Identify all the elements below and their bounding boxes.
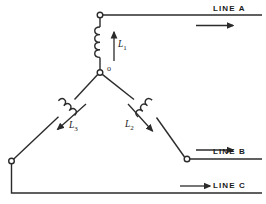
- line-c-label: LINE C: [213, 181, 246, 190]
- node-right-terminal: [184, 156, 190, 162]
- coil-3-label-subscript: 3: [74, 125, 78, 133]
- node-center-terminal: [97, 70, 103, 76]
- node-center-label: o: [107, 64, 111, 73]
- node-top-terminal: [97, 12, 103, 18]
- branch-left-conductor: [14, 74, 98, 159]
- line-b-label: LINE B: [213, 147, 246, 156]
- circuit-diagram: LINE A LINE B LINE C L1 L2 L3 o: [0, 0, 266, 204]
- line-a-label: LINE A: [213, 4, 246, 13]
- node-left-terminal: [9, 158, 15, 164]
- coil-3-label: L3: [69, 120, 78, 133]
- coil-2-label-subscript: 2: [130, 124, 134, 132]
- coil-1-label: L1: [118, 39, 127, 52]
- branch-right-conductor: [102, 74, 184, 157]
- coil-1-label-subscript: 1: [123, 44, 127, 52]
- coil-1-winding: [95, 18, 100, 70]
- circuit-schematic-svg: [0, 0, 266, 204]
- coil-2-label: L2: [125, 119, 134, 132]
